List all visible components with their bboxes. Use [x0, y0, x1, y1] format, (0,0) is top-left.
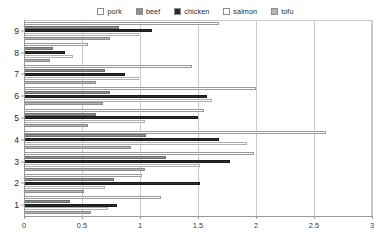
x-tick-3: 3 [370, 221, 374, 230]
bar-chicken-6[interactable] [24, 95, 207, 98]
y-tick-7: 7 [8, 69, 19, 79]
y-tick-4: 4 [8, 135, 19, 145]
legend-label-tofu: tofu [281, 7, 293, 16]
bar-group-1 [24, 194, 372, 216]
y-tick-mark-1 [21, 205, 24, 206]
bar-beef-3[interactable] [24, 156, 166, 159]
bar-pork-8[interactable] [24, 43, 88, 46]
legend-entry-tofu[interactable]: tofu [271, 7, 293, 16]
bar-tofu-1[interactable] [24, 211, 91, 214]
bar-pork-4[interactable] [24, 131, 326, 134]
chart-legend: porkbeefchickensalmontofu [0, 4, 391, 18]
x-tick-mark-0 [24, 216, 25, 219]
bar-group-3 [24, 151, 372, 173]
bar-salmon-8[interactable] [24, 55, 73, 58]
bar-tofu-7[interactable] [24, 81, 96, 84]
y-tick-mark-3 [21, 161, 24, 162]
y-tick-5: 5 [8, 113, 19, 123]
bar-beef-5[interactable] [24, 113, 96, 116]
y-axis-line [24, 20, 25, 216]
bar-beef-8[interactable] [24, 47, 53, 50]
bar-tofu-5[interactable] [24, 124, 88, 127]
legend-swatch-beef [136, 8, 143, 15]
bar-chicken-1[interactable] [24, 204, 117, 207]
bar-tofu-3[interactable] [24, 168, 145, 171]
y-tick-mark-7 [21, 74, 24, 75]
legend-label-chicken: chicken [184, 7, 209, 16]
x-tick-mark-2 [256, 216, 257, 219]
bar-tofu-8[interactable] [24, 59, 50, 62]
bar-pork-5[interactable] [24, 109, 204, 112]
y-tick-mark-5 [21, 118, 24, 119]
bar-beef-1[interactable] [24, 200, 70, 203]
x-tick-mark-1 [140, 216, 141, 219]
x-tick-mark-0.5 [82, 216, 83, 219]
bar-chicken-4[interactable] [24, 138, 219, 141]
bar-chicken-9[interactable] [24, 29, 152, 32]
bar-salmon-2[interactable] [24, 186, 105, 189]
bar-salmon-4[interactable] [24, 142, 247, 145]
bar-salmon-5[interactable] [24, 120, 145, 123]
plot-area [24, 20, 372, 216]
bar-salmon-1[interactable] [24, 207, 108, 210]
legend-swatch-chicken [174, 8, 181, 15]
legend-label-beef: beef [146, 7, 160, 16]
x-tick-2.5: 2.5 [309, 221, 319, 230]
y-tick-3: 3 [8, 157, 19, 167]
y-tick-mark-2 [21, 183, 24, 184]
bar-salmon-3[interactable] [24, 164, 200, 167]
bar-beef-7[interactable] [24, 69, 105, 72]
bar-beef-6[interactable] [24, 91, 110, 94]
x-tick-0: 0 [22, 221, 26, 230]
x-tick-1.5: 1.5 [193, 221, 203, 230]
legend-entry-chicken[interactable]: chicken [174, 7, 209, 16]
bar-chicken-3[interactable] [24, 160, 230, 163]
bar-beef-2[interactable] [24, 178, 114, 181]
gridline-3 [372, 20, 373, 216]
y-tick-mark-8 [21, 52, 24, 53]
bar-pork-9[interactable] [24, 22, 219, 25]
legend-entry-beef[interactable]: beef [136, 7, 160, 16]
bar-group-8 [24, 42, 372, 64]
bar-pork-1[interactable] [24, 196, 161, 199]
bar-pork-3[interactable] [24, 152, 254, 155]
bar-tofu-6[interactable] [24, 102, 103, 105]
bar-beef-9[interactable] [24, 26, 119, 29]
y-tick-2: 2 [8, 178, 19, 188]
bar-group-2 [24, 172, 372, 194]
bar-tofu-2[interactable] [24, 190, 84, 193]
bar-chart: porkbeefchickensalmontofu 00.511.522.53 … [0, 0, 391, 240]
y-tick-mark-9 [21, 30, 24, 31]
bar-tofu-9[interactable] [24, 37, 110, 40]
bar-tofu-4[interactable] [24, 146, 131, 149]
x-tick-2: 2 [254, 221, 258, 230]
legend-entry-salmon[interactable]: salmon [223, 7, 257, 16]
y-tick-1: 1 [8, 200, 19, 210]
bar-pork-7[interactable] [24, 65, 192, 68]
legend-label-salmon: salmon [233, 7, 257, 16]
y-tick-mark-4 [21, 139, 24, 140]
legend-entry-pork[interactable]: pork [97, 7, 121, 16]
y-tick-6: 6 [8, 91, 19, 101]
bar-chicken-5[interactable] [24, 116, 198, 119]
bar-group-7 [24, 64, 372, 86]
x-tick-mark-1.5 [198, 216, 199, 219]
bar-beef-4[interactable] [24, 134, 146, 137]
x-tick-1: 1 [138, 221, 142, 230]
x-tick-mark-3 [372, 216, 373, 219]
y-tick-9: 9 [8, 26, 19, 36]
bar-chicken-8[interactable] [24, 51, 65, 54]
legend-label-pork: pork [107, 7, 121, 16]
bar-pork-6[interactable] [24, 87, 256, 90]
bar-chicken-7[interactable] [24, 73, 125, 76]
bar-group-6 [24, 85, 372, 107]
y-tick-8: 8 [8, 48, 19, 58]
legend-swatch-salmon [223, 8, 230, 15]
legend-swatch-tofu [271, 8, 278, 15]
x-tick-mark-2.5 [314, 216, 315, 219]
bar-salmon-6[interactable] [24, 99, 212, 102]
bar-chicken-2[interactable] [24, 182, 200, 185]
bar-pork-2[interactable] [24, 174, 142, 177]
bar-salmon-9[interactable] [24, 33, 139, 36]
bar-salmon-7[interactable] [24, 77, 139, 80]
